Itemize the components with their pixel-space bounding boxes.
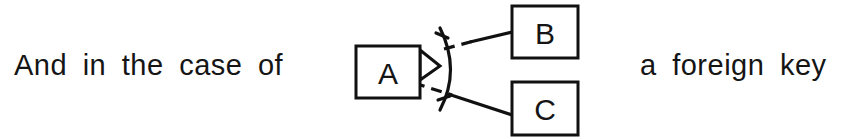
figure-canvas: And in the case of A B [0, 0, 858, 139]
entity-box-a: A [356, 46, 420, 98]
arrowhead-icon [420, 50, 440, 80]
entity-box-b-label: B [535, 17, 555, 50]
link-a-to-c [414, 83, 512, 115]
arc-tick-bottom [438, 96, 450, 100]
link-a-to-b [444, 32, 512, 49]
entity-box-b: B [512, 6, 578, 58]
sentence-text-left: And in the case of [14, 51, 283, 80]
sentence-text-right: a foreign key [640, 51, 827, 80]
link-a-to-c-solid-segment [448, 94, 512, 115]
link-a-to-b-solid-segment [470, 32, 512, 42]
entity-box-c-label: C [534, 93, 556, 126]
entity-relationship-diagram: A B C [340, 0, 600, 139]
entity-box-c: C [512, 82, 578, 135]
entity-box-a-label: A [378, 57, 398, 90]
